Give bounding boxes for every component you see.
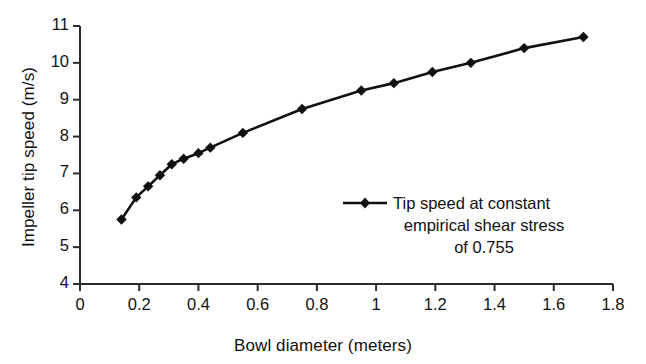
- y-tick-label: 9: [29, 89, 69, 108]
- data-point-marker: [193, 148, 203, 158]
- data-point-marker: [389, 78, 399, 88]
- x-tick-label: 1: [351, 295, 401, 314]
- x-tick-label: 0.2: [114, 295, 164, 314]
- x-tick-label: 1.6: [529, 295, 579, 314]
- x-axis-label: Bowl diameter (meters): [0, 336, 646, 356]
- data-point-marker: [466, 58, 476, 68]
- data-point-marker: [178, 153, 188, 163]
- y-tick-label: 4: [29, 273, 69, 292]
- data-point-marker: [578, 32, 588, 42]
- x-tick-label: 1.4: [470, 295, 520, 314]
- y-tick-label: 11: [29, 15, 69, 34]
- legend-key-icon: [341, 196, 389, 210]
- x-axis-ticks: [80, 284, 613, 291]
- chart-legend: Tip speed at constant empirical shear st…: [341, 192, 627, 258]
- data-point-marker: [297, 104, 307, 114]
- chart-figure: Impeller tip speed (m/s) Bowl diameter (…: [0, 0, 646, 364]
- data-point-marker: [427, 67, 437, 77]
- x-tick-label: 0.8: [292, 295, 342, 314]
- y-axis-ticks: [73, 26, 80, 284]
- data-point-marker: [356, 85, 366, 95]
- data-point-marker: [238, 128, 248, 138]
- x-tick-label: 1.2: [410, 295, 460, 314]
- data-point-marker: [519, 43, 529, 53]
- y-tick-label: 6: [29, 199, 69, 218]
- y-tick-label: 7: [29, 162, 69, 181]
- legend-line-3: of 0.755: [341, 236, 627, 258]
- y-tick-label: 5: [29, 236, 69, 255]
- y-tick-label: 8: [29, 126, 69, 145]
- x-tick-label: 0.6: [233, 295, 283, 314]
- y-tick-label: 10: [29, 52, 69, 71]
- x-tick-label: 0.4: [173, 295, 223, 314]
- x-tick-label: 1.8: [588, 295, 638, 314]
- x-tick-label: 0: [55, 295, 105, 314]
- data-point-marker: [205, 142, 215, 152]
- legend-line-2: empirical shear stress: [341, 214, 627, 236]
